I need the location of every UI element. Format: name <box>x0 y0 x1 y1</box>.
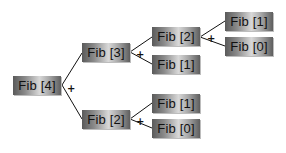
plus-operator-fib2-lower: + <box>136 117 144 127</box>
edge-fib4-fib3 <box>62 53 82 85</box>
node-fib-3: Fib [3] <box>82 43 130 62</box>
node-fib-1-top: Fib [1] <box>225 12 273 31</box>
node-fib-0-top: Fib [0] <box>225 37 273 56</box>
plus-operator-fib4: + <box>67 84 75 94</box>
plus-operator-fib2-upper: + <box>207 34 215 44</box>
node-fib-2-lower: Fib [2] <box>82 110 130 129</box>
node-fib-2-upper: Fib [2] <box>152 27 200 46</box>
fibonacci-tree-diagram: Fib [4] + Fib [3] + Fib [2] + Fib [1] Fi… <box>0 0 286 153</box>
plus-operator-fib3: + <box>136 50 144 60</box>
node-fib-4: Fib [4] <box>13 76 61 95</box>
node-fib-1-mid: Fib [1] <box>152 55 200 74</box>
node-fib-0-bottom: Fib [0] <box>152 119 200 138</box>
node-fib-1-bottom: Fib [1] <box>152 94 200 113</box>
